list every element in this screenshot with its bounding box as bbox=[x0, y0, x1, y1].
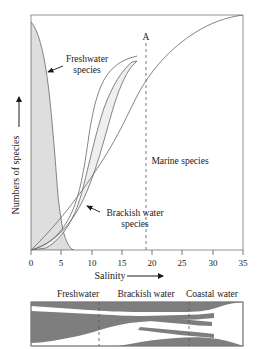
xtick-0: 0 bbox=[29, 258, 34, 268]
species-salinity-plot: 0 5 10 15 20 25 30 35 Salinity Numbers o… bbox=[10, 15, 248, 281]
xtick-3: 15 bbox=[118, 258, 128, 268]
xtick-7: 35 bbox=[239, 258, 249, 268]
zone-label-brackish: Brackish water bbox=[117, 289, 175, 299]
xtick-2: 10 bbox=[88, 258, 98, 268]
xtick-4: 20 bbox=[148, 258, 158, 268]
xtick-1: 5 bbox=[59, 258, 64, 268]
point-a-label: A bbox=[143, 32, 150, 42]
freshwater-annotation-line1: Freshwater bbox=[66, 54, 109, 64]
figure-root: 0 5 10 15 20 25 30 35 Salinity Numbers o… bbox=[0, 0, 264, 349]
marine-species-annotation: Marine species bbox=[151, 156, 209, 166]
zone-label-coastal: Coastal water bbox=[186, 289, 239, 299]
x-axis-title: Salinity bbox=[94, 270, 125, 281]
freshwater-annotation-line2: species bbox=[73, 65, 101, 75]
zone-label-freshwater: Freshwater bbox=[57, 289, 100, 299]
estuary-zonation-diagram: Freshwater Brackish water Coastal water bbox=[31, 289, 243, 346]
x-axis bbox=[31, 250, 243, 255]
xtick-5: 25 bbox=[178, 258, 188, 268]
xtick-6: 30 bbox=[209, 258, 219, 268]
brackish-annotation-line2: species bbox=[121, 219, 149, 229]
x-axis-ticklabels: 0 5 10 15 20 25 30 35 bbox=[29, 258, 248, 268]
y-axis-title: Numbers of species bbox=[10, 135, 21, 214]
brackish-annotation-line1: Brackish water bbox=[106, 208, 164, 218]
